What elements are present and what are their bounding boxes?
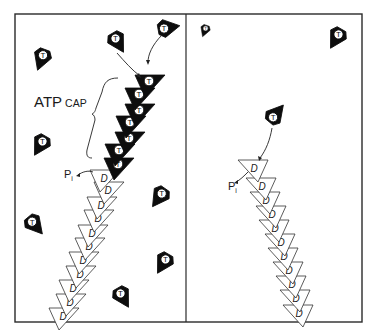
atp-label: T (113, 34, 118, 43)
atp-label: T (271, 113, 276, 122)
atp-label: T (147, 77, 152, 86)
binding-arrow (148, 35, 162, 62)
atp-label: T (117, 146, 122, 155)
atp-label: T (137, 90, 142, 99)
atp-label: T (162, 24, 167, 33)
atp-label: T (159, 189, 164, 198)
atp-subunit: T (323, 25, 350, 53)
right-panel: TTT DDDDDDDDDD D Pi (198, 24, 349, 327)
atp-subunit: T (145, 183, 172, 211)
arrow-head-icon (146, 60, 150, 65)
atp-subunit: T (110, 284, 137, 312)
adp-label: D (258, 181, 265, 192)
free-atp-subunits: TTTTTTTT (21, 17, 181, 312)
atp-subunit: T (29, 46, 53, 73)
pi-label-left: Pi (64, 168, 73, 182)
arrow-head-icon (76, 173, 80, 177)
atp-cap-label: ATPCAP (34, 93, 87, 110)
atp-subunit: T (150, 250, 177, 278)
adp-subunits: DDDDDDDDDD (49, 182, 124, 330)
adp-subunits: DDDDDDDDDD (246, 178, 313, 327)
atp-subunit: T (157, 17, 182, 39)
atp-label: T (40, 137, 45, 146)
adp-label: D (250, 163, 257, 174)
atp-subunit: T (105, 29, 132, 57)
atp-label: T (118, 289, 123, 298)
atp-subunit: T (21, 211, 49, 239)
atp-subunit: T (198, 24, 211, 39)
adp-label: D (100, 173, 107, 184)
figure-canvas: TTTTTTTT DDDDDDDDDD D TTTTTTT ATPCAP Pi … (0, 0, 375, 336)
atp-label: T (336, 30, 341, 39)
free-atp-subunits: TTT (198, 24, 349, 128)
binding-arrow (117, 53, 140, 76)
atp-cap-subunits: TTTTTTT (104, 75, 165, 180)
atp-label: T (41, 51, 46, 60)
left-filament: DDDDDDDDDD D TTTTTTT (49, 75, 165, 330)
atp-subunit: T (27, 132, 54, 160)
atp-label: T (204, 26, 207, 31)
binding-arrow (260, 128, 272, 158)
right-filament: DDDDDDDDDD D (238, 160, 313, 327)
atp-label: T (163, 255, 168, 264)
atp-label: T (30, 218, 35, 227)
left-panel: TTTTTTTT DDDDDDDDDD D TTTTTTT ATPCAP Pi (21, 17, 181, 330)
atp-subunit: T (262, 99, 290, 127)
pi-release-arrow (78, 171, 93, 175)
